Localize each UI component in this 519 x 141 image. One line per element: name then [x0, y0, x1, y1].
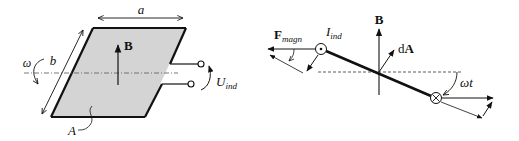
right-panel-cross-section: B dA Iind Fmagn ωt [268, 12, 493, 118]
field-b-label: B [124, 38, 133, 53]
force-angle-arc-icon [289, 49, 294, 61]
dimension-b-label: b [50, 53, 57, 68]
angle-arc-icon [443, 72, 457, 95]
area-element-arrow-icon [379, 50, 394, 72]
force-perpendicular-arrow-icon [307, 55, 318, 71]
dimension-a-label: a [138, 2, 145, 17]
field-b-label-right: B [375, 12, 384, 27]
voltage-label: Uind [216, 74, 237, 91]
area-element-label: dA [398, 41, 415, 56]
voltage-label-sub: ind [225, 81, 237, 91]
force-label-main: F [274, 27, 282, 42]
rotating-loop-diagram: a b ω B A Uind B dA [0, 0, 519, 141]
force-label: Fmagn [274, 27, 302, 44]
terminal-bottom-icon [188, 81, 194, 87]
area-element-A: A [405, 41, 415, 56]
voltage-arrow-icon [201, 66, 210, 90]
current-label: Iind [325, 24, 342, 41]
rotation-arrow-icon [34, 59, 44, 84]
force-label-sub: magn [282, 34, 302, 44]
terminal-top-icon [198, 61, 204, 67]
area-a-label: A [67, 123, 76, 138]
force-parallel-arrow-icon [270, 55, 303, 73]
omega-label: ω [23, 56, 31, 70]
current-label-sub: ind [330, 31, 342, 41]
force-right-parallel-arrow-icon [441, 102, 482, 118]
force-right-perpendicular-arrow-icon [483, 102, 492, 116]
left-panel-loop-perspective: a b ω B A Uind [23, 2, 238, 138]
angle-label: ωt [460, 75, 473, 90]
current-out-dot-icon [320, 48, 323, 51]
